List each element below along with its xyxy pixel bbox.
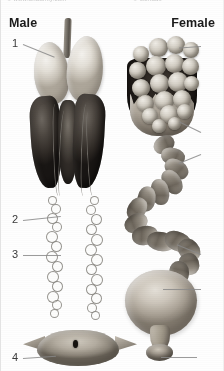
leader-line-9	[163, 289, 201, 290]
cloacal-opening	[146, 344, 173, 361]
ovary-follicle	[177, 104, 192, 119]
ovary-follicle	[168, 117, 181, 130]
heading-male: Male	[9, 16, 37, 30]
leader-line-10	[161, 357, 197, 358]
cloacal-pore	[73, 340, 78, 348]
ovary-follicle	[129, 62, 146, 79]
ovary-follicle	[184, 76, 199, 91]
ovary-follicle	[150, 74, 169, 93]
credit-strip: © www.anatomy.com © Gonads	[1, 0, 224, 6]
epididymis-coil	[50, 309, 59, 318]
ovary-follicle	[182, 58, 199, 75]
ovary-follicle	[165, 54, 184, 73]
credit-right: © Gonads	[133, 0, 162, 2]
callout-number-4: 4	[12, 352, 18, 363]
callout-number-3: 3	[12, 249, 18, 260]
leader-line-3	[23, 255, 61, 256]
ovary-follicle	[183, 42, 199, 58]
ovary-follicle	[146, 56, 166, 76]
epididymis-coil	[91, 311, 100, 320]
ovary-follicle	[152, 119, 166, 133]
heading-female: Female	[171, 16, 215, 30]
callout-number-2: 2	[12, 214, 18, 225]
callout-number-1: 1	[12, 38, 18, 49]
credit-left: © www.anatomy.com	[7, 0, 66, 2]
cloaca-papilla	[37, 330, 119, 366]
epididymis-coil	[90, 196, 99, 205]
ovary-follicle	[149, 38, 168, 57]
anatomy-figure: © www.anatomy.com © Gonads Male Female 1…	[0, 0, 224, 371]
